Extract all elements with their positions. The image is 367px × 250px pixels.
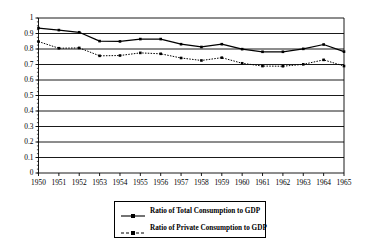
line-chart: 00.10.20.30.40.50.60.70.80.91 1950195119… bbox=[0, 0, 367, 250]
y-tick-label: 0.8 bbox=[0, 45, 34, 52]
legend-marker-solid-line bbox=[120, 207, 146, 217]
y-tick-label: 0.9 bbox=[0, 30, 34, 37]
x-tick-label: 1954 bbox=[109, 179, 131, 186]
y-tick-label: 1 bbox=[0, 14, 34, 21]
x-tick-label: 1953 bbox=[89, 179, 111, 186]
legend-entry-total-consumption: Ratio of Total Consumption to GDP bbox=[115, 204, 265, 220]
gridlines bbox=[39, 34, 345, 158]
legend-label-private-consumption: Ratio of Private Consumption to GDP bbox=[150, 225, 267, 232]
x-tick-label: 1964 bbox=[313, 179, 335, 186]
x-tick-label: 1962 bbox=[272, 179, 294, 186]
x-tick-label: 1963 bbox=[292, 179, 314, 186]
y-tick-label: 0 bbox=[0, 169, 34, 176]
chart-legend: Ratio of Total Consumption to GDP Ratio … bbox=[114, 201, 266, 238]
y-tick-label: 0.5 bbox=[0, 92, 34, 99]
y-tick-label: 0.7 bbox=[0, 61, 34, 68]
x-tick-label: 1956 bbox=[150, 179, 172, 186]
x-tick-label: 1960 bbox=[231, 179, 253, 186]
legend-entry-private-consumption: Ratio of Private Consumption to GDP bbox=[115, 221, 265, 237]
x-tick-label: 1958 bbox=[190, 179, 212, 186]
x-tick-label: 1951 bbox=[48, 179, 70, 186]
y-tick-label: 0.3 bbox=[0, 123, 34, 130]
y-tick-label: 0.2 bbox=[0, 138, 34, 145]
y-tick-label: 0.6 bbox=[0, 76, 34, 83]
x-tick-label: 1955 bbox=[129, 179, 151, 186]
x-tick-label: 1961 bbox=[252, 179, 274, 186]
x-tick-label: 1950 bbox=[28, 179, 50, 186]
series-lines bbox=[37, 27, 345, 68]
legend-label-total-consumption: Ratio of Total Consumption to GDP bbox=[150, 208, 260, 215]
x-tick-label: 1965 bbox=[333, 179, 355, 186]
x-tick-label: 1952 bbox=[68, 179, 90, 186]
y-tick-label: 0.1 bbox=[0, 154, 34, 161]
y-tick-label: 0.4 bbox=[0, 107, 34, 114]
legend-marker-dotted-line bbox=[120, 224, 146, 234]
x-tick-label: 1959 bbox=[211, 179, 233, 186]
x-tick-label: 1957 bbox=[170, 179, 192, 186]
